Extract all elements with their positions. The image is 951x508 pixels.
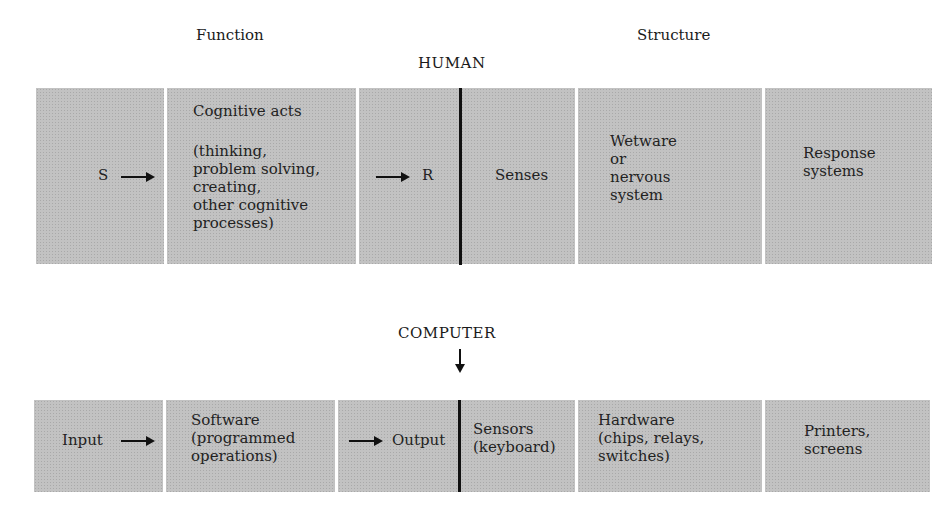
function-header: Function bbox=[196, 26, 264, 44]
function-structure-divider bbox=[459, 88, 462, 265]
sensors-label: Sensors (keyboard) bbox=[473, 420, 556, 456]
right-arrow-icon bbox=[349, 440, 381, 442]
human-stimulus-cell: S bbox=[36, 88, 164, 264]
input-cell: Input bbox=[34, 400, 163, 492]
function-structure-divider bbox=[458, 400, 461, 492]
cognitive-acts-title: Cognitive acts bbox=[193, 102, 302, 120]
senses-label: Senses bbox=[495, 166, 548, 184]
response-label: R bbox=[422, 166, 433, 184]
printers-cell: Printers, screens bbox=[765, 400, 930, 492]
stimulus-label: S bbox=[98, 166, 108, 184]
output-label: Output bbox=[392, 431, 445, 449]
software-cell: Software (programmed operations) bbox=[166, 400, 335, 492]
computer-title: COMPUTER bbox=[398, 324, 496, 342]
cognitive-acts-cell: Cognitive acts (thinking, problem solvin… bbox=[167, 88, 356, 264]
human-title: HUMAN bbox=[418, 54, 486, 72]
input-label: Input bbox=[62, 431, 103, 449]
wetware-label: Wetware or nervous system bbox=[610, 132, 677, 204]
wetware-cell: Wetware or nervous system bbox=[578, 88, 762, 264]
right-arrow-icon bbox=[121, 176, 153, 178]
right-arrow-icon bbox=[121, 440, 153, 442]
response-systems-label: Response systems bbox=[803, 144, 876, 180]
output-sensors-cell: Output Sensors (keyboard) bbox=[338, 400, 575, 492]
software-label: Software (programmed operations) bbox=[191, 411, 295, 465]
response-systems-cell: Response systems bbox=[765, 88, 932, 264]
cognitive-acts-list: (thinking, problem solving, creating, ot… bbox=[193, 142, 320, 232]
hardware-cell: Hardware (chips, relays, switches) bbox=[578, 400, 762, 492]
down-arrow-icon bbox=[459, 349, 461, 369]
printers-label: Printers, screens bbox=[804, 422, 870, 458]
human-sense-cell: R Senses bbox=[359, 88, 575, 264]
right-arrow-icon bbox=[376, 176, 408, 178]
structure-header: Structure bbox=[637, 26, 710, 44]
hardware-label: Hardware (chips, relays, switches) bbox=[598, 411, 704, 465]
